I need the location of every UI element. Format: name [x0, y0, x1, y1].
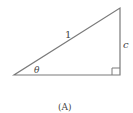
triangle-diagram: 1 c θ (A): [0, 0, 133, 113]
hypotenuse-label: 1: [65, 29, 71, 40]
side-c-label: c: [123, 39, 129, 50]
right-triangle: [14, 8, 120, 75]
right-angle-marker: [112, 68, 120, 75]
angle-theta-label: θ: [34, 65, 40, 75]
figure-caption: (A): [58, 102, 72, 112]
